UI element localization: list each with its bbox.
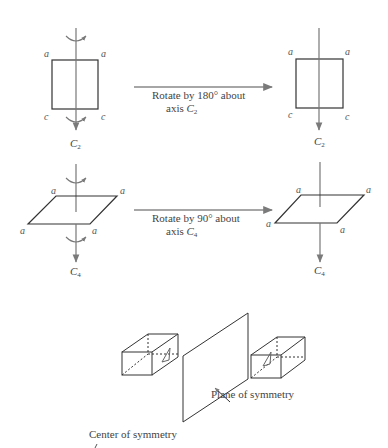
c2-after-label-top-right: a bbox=[345, 47, 350, 57]
c2-before-axis-label: C2 bbox=[70, 138, 81, 151]
mirror-plane bbox=[183, 313, 248, 422]
c2-before-label-bottom-left: c bbox=[44, 112, 48, 122]
c4-after-axis-label: C4 bbox=[314, 265, 325, 278]
c4-before-axis-label: C4 bbox=[70, 266, 81, 279]
c4-before-label-top-left: a bbox=[51, 186, 56, 196]
c4-after-figure bbox=[275, 162, 364, 262]
c2-after-label-top-left: a bbox=[288, 47, 293, 57]
c4-after-label-bottom-right: a bbox=[340, 225, 345, 235]
c4-before-label-bottom-left: a bbox=[20, 226, 25, 236]
c2-before-label-top-left: a bbox=[44, 49, 49, 59]
c2-before-label-top-right: a bbox=[101, 49, 106, 59]
c4-before-figure bbox=[28, 164, 117, 262]
c2-after-figure bbox=[296, 28, 343, 130]
left-box bbox=[122, 334, 178, 375]
plane-of-symmetry-caption: Plane of symmetry bbox=[211, 388, 294, 401]
c2-rotation-caption: Rotate by 180° about axis C2 bbox=[152, 89, 245, 119]
c2-before-label-bottom-right: c bbox=[101, 112, 105, 122]
c4-before-label-top-right: a bbox=[120, 186, 125, 196]
c4-after-label-top-left: a bbox=[296, 185, 301, 195]
c4-after-label-bottom-left: a bbox=[266, 219, 271, 229]
center-pointer-stub bbox=[95, 444, 97, 448]
right-box bbox=[251, 337, 305, 378]
c2-after-label-bottom-right: c bbox=[345, 112, 349, 122]
c4-after-label-top-right: a bbox=[366, 185, 371, 195]
c2-after-label-bottom-left: c bbox=[288, 110, 292, 120]
c4-rotation-caption: Rotate by 90° about axis C4 bbox=[152, 212, 240, 242]
c2-before-figure bbox=[52, 28, 98, 130]
center-of-symmetry-caption: Center of symmetry bbox=[89, 428, 177, 441]
c4-before-label-bottom-right: a bbox=[92, 226, 97, 236]
c2-after-axis-label: C2 bbox=[314, 136, 325, 149]
